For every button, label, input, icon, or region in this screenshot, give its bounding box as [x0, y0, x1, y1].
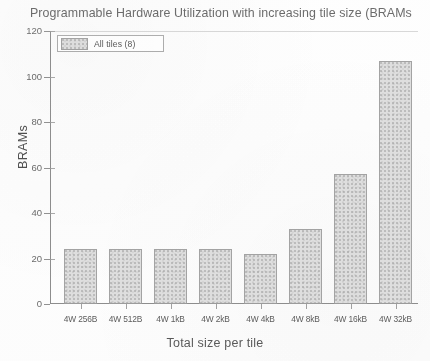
x-tick-mark: [261, 304, 262, 309]
x-tick-mark: [396, 304, 397, 309]
x-tick-mark: [126, 304, 127, 309]
bar-chart: Programmable Hardware Utilization with i…: [0, 0, 430, 361]
x-axis-label: Total size per tile: [0, 336, 430, 350]
x-tick-label: 4W 32kB: [371, 314, 421, 324]
y-tick-label: 120: [16, 25, 42, 36]
y-tick-mark-inner: [50, 259, 55, 260]
y-tick-label: 40: [16, 207, 42, 218]
x-tick-mark: [171, 304, 172, 309]
x-tick-mark: [306, 304, 307, 309]
chart-title: Programmable Hardware Utilization with i…: [30, 6, 430, 20]
chart-legend[interactable]: All tiles (8): [57, 35, 164, 52]
bar-4w-16kb[interactable]: [334, 174, 367, 304]
x-tick-label: 4W 256B: [56, 314, 106, 324]
x-tick-mark: [351, 304, 352, 309]
x-tick-mark: [81, 304, 82, 309]
y-tick-label: 20: [16, 253, 42, 264]
bar-4w-4kb[interactable]: [244, 254, 277, 304]
legend-label: All tiles (8): [94, 39, 135, 49]
x-tick-label: 4W 8kB: [281, 314, 331, 324]
bar-4w-32kb[interactable]: [379, 61, 412, 304]
x-tick-mark: [216, 304, 217, 309]
bar-4w-1kb[interactable]: [154, 249, 187, 304]
y-tick-mark-inner: [50, 213, 55, 214]
y-tick-label: 100: [16, 71, 42, 82]
y-tick-mark-inner: [50, 31, 55, 32]
y-tick-mark-inner: [50, 168, 55, 169]
y-tick-mark: [44, 304, 50, 305]
x-tick-label: 4W 1kB: [146, 314, 196, 324]
x-tick-label: 4W 16kB: [326, 314, 376, 324]
x-tick-label: 4W 4kB: [236, 314, 286, 324]
legend-swatch-icon: [61, 38, 88, 50]
x-tick-label: 4W 512B: [101, 314, 151, 324]
y-tick-mark-inner: [50, 122, 55, 123]
bar-4w-2kb[interactable]: [199, 249, 232, 304]
x-tick-label: 4W 2kB: [191, 314, 241, 324]
bar-4w-8kb[interactable]: [289, 229, 322, 304]
y-axis-label: BRAMs: [16, 102, 30, 192]
y-tick-label: 0: [16, 298, 42, 309]
y-tick-mark-inner: [50, 77, 55, 78]
bar-4w-512b[interactable]: [109, 249, 142, 304]
bar-4w-256b[interactable]: [64, 249, 97, 304]
